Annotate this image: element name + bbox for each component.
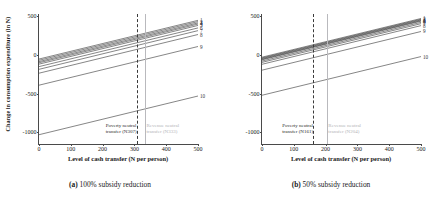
series-line-decile-9 [39,47,198,86]
chart-panel-b: 5000-500-1000010020030040050012345678910… [221,0,441,203]
series-line-decile-4 [39,24,198,63]
x-tick-mark [357,144,358,146]
series-line-decile-1 [39,20,198,59]
y-tick-mark [37,55,39,56]
revenue-neutral-annotation: Revenue neutraltransfer (N333) [146,123,179,135]
y-tick-label: -500 [26,91,37,97]
decile-end-label-8: 8 [200,32,203,38]
y-tick-label: -500 [249,91,260,97]
series-line-decile-7 [262,24,421,63]
series-line-decile-1 [262,18,421,57]
series-line-decile-3 [39,23,198,62]
x-tick-label: 200 [98,146,107,152]
y-tick-mark [37,16,39,17]
decile-end-label-10: 10 [200,93,205,99]
x-tick-label: 100 [66,146,75,152]
decile-end-label-9: 9 [200,44,203,50]
y-tick-label: -1000 [246,129,260,135]
revenue-neutral-annotation: Revenue neutraltransfer (N204) [328,123,361,135]
poverty-neutral-annotation: Poverty neutraltransfer (N307) [106,123,137,135]
chart-panel-a: Change in consumption expenditure (in N)… [0,0,220,203]
x-tick-mark [421,144,422,146]
annotation-line-2: transfer (N333) [146,129,179,135]
y-tick-mark [260,55,262,56]
x-tick-label: 500 [194,146,203,152]
x-axis-title: Level of cash transfer (N per person) [261,155,421,162]
x-tick-mark [39,144,40,146]
x-tick-mark [71,144,72,146]
panel-caption-a-text: 100% subsidy reduction [80,180,151,189]
x-tick-label: 200 [321,146,330,152]
annotation-line-2: transfer (N204) [328,129,361,135]
x-tick-label: 300 [130,146,139,152]
series-line-decile-8 [262,26,421,65]
series-line-decile-6 [39,28,198,67]
x-tick-mark [262,144,263,146]
y-axis-title: Change in consumption expenditure (in N) [2,6,14,142]
poverty-neutral-annotation: Poverty neutraltransfer (N161) [282,123,313,135]
y-tick-mark [37,94,39,95]
y-tick-label: 500 [28,13,37,19]
x-tick-label: 0 [38,146,41,152]
series-line-decile-9 [262,31,421,70]
x-tick-label: 400 [162,146,171,152]
x-tick-label: 0 [261,146,264,152]
annotation-line-2: transfer (N307) [106,129,137,135]
series-line-decile-7 [39,31,198,70]
poverty-neutral-rule [313,14,314,144]
x-tick-mark [326,144,327,146]
y-tick-mark [37,132,39,133]
x-tick-label: 500 [417,146,426,152]
series-line-decile-8 [39,35,198,74]
panel-caption-b-text: 50% subsidy reduction [303,180,371,189]
series-line-decile-5 [39,25,198,64]
x-tick-mark [134,144,135,146]
x-tick-mark [166,144,167,146]
panel-caption-b-tag: (b) [292,180,301,189]
series-line-decile-10 [262,57,421,96]
x-tick-label: 400 [385,146,394,152]
x-tick-mark [294,144,295,146]
figure-subsidy-reduction: Change in consumption expenditure (in N)… [0,0,441,203]
y-tick-mark [260,94,262,95]
series-line-decile-3 [262,20,421,59]
x-tick-mark [103,144,104,146]
y-tick-mark [260,132,262,133]
x-tick-mark [198,144,199,146]
x-tick-label: 100 [289,146,298,152]
series-line-decile-2 [39,22,198,61]
decile-end-label-9: 9 [423,28,426,34]
plot-area-a: 5000-500-1000010020030040050012345678910… [38,14,198,145]
poverty-neutral-rule [137,14,138,144]
panel-caption-b: (b) 50% subsidy reduction [221,180,441,189]
x-tick-mark [389,144,390,146]
annotation-line-2: transfer (N161) [282,129,313,135]
decile-end-label-10: 10 [423,54,428,60]
panel-caption-a: (a) 100% subsidy reduction [0,180,220,189]
panel-caption-a-tag: (a) [69,180,78,189]
series-line-decile-5 [262,21,421,60]
y-tick-label: -1000 [23,129,37,135]
y-tick-label: 500 [251,13,260,19]
x-tick-label: 300 [353,146,362,152]
x-axis-title: Level of cash transfer (N per person) [38,155,198,162]
series-line-decile-6 [262,22,421,61]
series-line-decile-4 [262,21,421,60]
series-line-decile-2 [262,19,421,58]
y-tick-mark [260,16,262,17]
plot-area-b: 5000-500-1000010020030040050012345678910… [261,14,421,145]
